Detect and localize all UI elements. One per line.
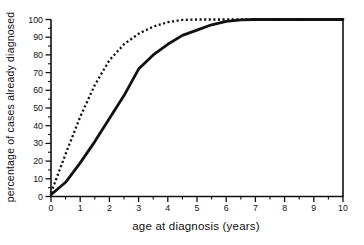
y-tick-label: 90	[33, 32, 43, 42]
y-tick-label: 0	[38, 192, 43, 202]
x-axis-title: age at diagnosis (years)	[132, 220, 260, 232]
y-tick-label: 20	[33, 156, 43, 166]
y-axis-title: percentage of cases already diagnosed	[4, 12, 16, 203]
chart-figure: 0123456789100102030405060708090100 perce…	[0, 0, 364, 245]
x-tick-label: 9	[311, 203, 316, 213]
y-tick-label: 30	[33, 138, 43, 148]
x-tick-label: 7	[253, 203, 258, 213]
y-tick-label: 60	[33, 85, 43, 95]
y-tick-label: 100	[28, 15, 43, 25]
x-tick-label: 10	[338, 203, 348, 213]
x-tick-label: 2	[107, 203, 112, 213]
y-tick-label: 50	[33, 103, 43, 113]
solid-curve	[51, 20, 343, 195]
x-tick-label: 8	[282, 203, 287, 213]
x-tick-label: 0	[49, 203, 54, 213]
x-tick-label: 6	[224, 203, 229, 213]
y-tick-label: 80	[33, 50, 43, 60]
dotted-curve	[51, 20, 343, 194]
y-tick-label: 10	[33, 174, 43, 184]
x-tick-label: 4	[165, 203, 170, 213]
x-tick-label: 5	[195, 203, 200, 213]
axis-frame	[51, 20, 343, 197]
y-tick-label: 40	[33, 121, 43, 131]
x-tick-label: 1	[78, 203, 83, 213]
x-tick-label: 3	[136, 203, 141, 213]
y-tick-label: 70	[33, 68, 43, 78]
line-chart-canvas: 0123456789100102030405060708090100	[0, 0, 364, 245]
